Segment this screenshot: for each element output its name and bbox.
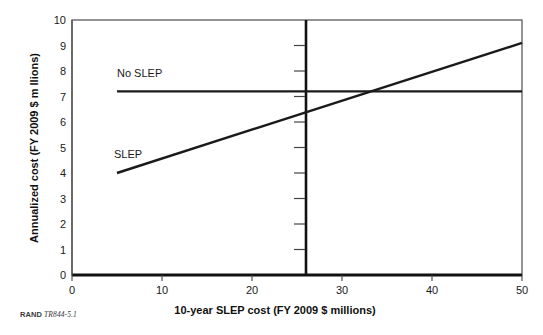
y-tick-label: 5 (60, 142, 66, 154)
series-label-no-slep: No SLEP (117, 67, 162, 79)
x-tick-labels: 0 10 20 30 40 50 (69, 284, 528, 296)
x-tick-label: 20 (246, 284, 258, 296)
x-tick-label: 40 (426, 284, 438, 296)
x-tick-label: 50 (516, 284, 528, 296)
y-tick-label: 4 (60, 167, 66, 179)
credit-brand: RAND (20, 310, 42, 319)
chart-canvas: 0 10 20 30 40 50 0 1 2 3 4 5 6 7 8 9 10 (0, 0, 543, 335)
y-axis-title: Annualized cost (FY 2009 $ m llions) (28, 53, 40, 243)
figure-container: 0 10 20 30 40 50 0 1 2 3 4 5 6 7 8 9 10 (0, 0, 543, 335)
x-tick-label: 30 (336, 284, 348, 296)
series-label-slep: SLEP (114, 148, 142, 160)
credit-id: TR844-5.1 (44, 310, 77, 319)
y-tick-label: 0 (60, 269, 66, 281)
figure-credit: RANDTR844-5.1 (20, 310, 77, 319)
y-tick-label: 10 (54, 14, 66, 26)
y-tick-label: 1 (60, 244, 66, 256)
y-tick-label: 6 (60, 116, 66, 128)
y-tick-label: 8 (60, 65, 66, 77)
x-tick-label: 0 (69, 284, 75, 296)
y-tick-label: 2 (60, 218, 66, 230)
y-tick-label: 7 (60, 91, 66, 103)
x-axis-title: 10-year SLEP cost (FY 2009 $ millions) (174, 304, 376, 316)
y-tick-label: 3 (60, 193, 66, 205)
y-tick-label: 9 (60, 40, 66, 52)
y-tick-labels: 0 1 2 3 4 5 6 7 8 9 10 (54, 14, 66, 281)
x-tick-label: 10 (156, 284, 168, 296)
